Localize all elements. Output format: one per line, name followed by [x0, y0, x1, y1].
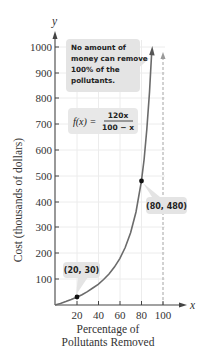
- svg-text:(80, 480): (80, 480): [146, 202, 187, 211]
- svg-text:200: 200: [36, 247, 53, 259]
- svg-text:(20, 30): (20, 30): [64, 266, 99, 275]
- svg-text:700: 700: [36, 118, 53, 130]
- y-axis-arrow-icon: [53, 31, 58, 39]
- svg-text:500: 500: [36, 170, 53, 182]
- svg-text:300: 300: [36, 221, 53, 233]
- x-axis-symbol: x: [189, 299, 196, 311]
- svg-text:100 − x: 100 − x: [102, 123, 134, 132]
- x-axis-title-line1: Percentage of: [77, 323, 140, 336]
- x-ticks: [77, 301, 163, 305]
- svg-text:800: 800: [36, 92, 53, 104]
- svg-text:pollutants.: pollutants.: [71, 76, 115, 85]
- svg-text:No amount of: No amount of: [71, 43, 127, 52]
- y-axis-symbol: y: [51, 15, 58, 28]
- svg-text:20: 20: [72, 309, 84, 321]
- svg-text:600: 600: [36, 144, 53, 156]
- svg-text:400: 400: [36, 196, 53, 208]
- y-tick-labels: 100 200 300 400 500 600 700 800 900 1000: [30, 41, 53, 285]
- svg-text:80: 80: [136, 309, 148, 321]
- svg-text:100: 100: [36, 273, 53, 285]
- svg-text:120x: 120x: [108, 111, 129, 120]
- formula-annotation: f(x) = 120x 100 − x: [68, 108, 138, 134]
- svg-text:1000: 1000: [30, 41, 53, 53]
- y-axis-title: Cost (thousands of dollars): [12, 138, 25, 262]
- asymptote-arrow-icon: [161, 52, 166, 59]
- svg-text:900: 900: [36, 67, 53, 79]
- svg-text:f(x) =: f(x) =: [73, 116, 96, 128]
- svg-text:100: 100: [155, 309, 172, 321]
- chart: y x 100 200 300 400 500 600 700 800 900 …: [0, 0, 203, 355]
- svg-text:40: 40: [93, 309, 105, 321]
- x-axis-arrow-icon: [179, 303, 187, 308]
- x-axis-title-line2: Pollutants Removed: [62, 336, 155, 348]
- svg-text:60: 60: [115, 309, 127, 321]
- point-20-30: (20, 30): [63, 262, 100, 299]
- y-ticks: [55, 47, 59, 279]
- svg-text:100% of the: 100% of the: [71, 65, 120, 74]
- callout-annotation: No amount of money can remove 100% of th…: [66, 39, 150, 92]
- svg-text:money can remove: money can remove: [71, 54, 148, 63]
- x-tick-labels: 20 40 60 80 100: [72, 309, 172, 321]
